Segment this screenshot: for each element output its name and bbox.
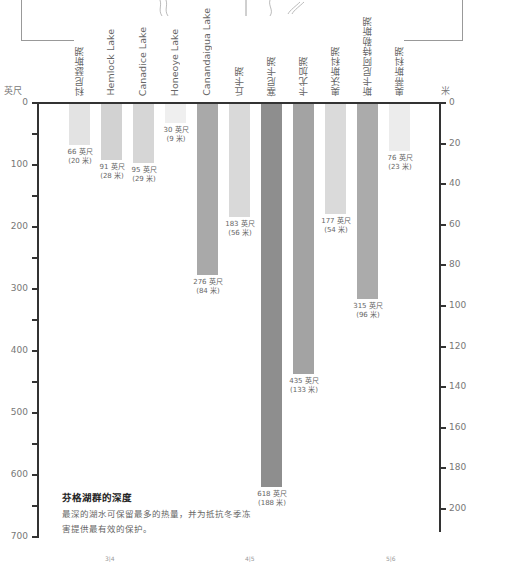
depth-bar	[133, 104, 154, 163]
value-meters: (29 米)	[122, 175, 166, 184]
left-tick	[32, 102, 38, 104]
value-meters: (56 米)	[218, 229, 262, 238]
depth-bar	[261, 104, 282, 487]
value-meters: (96 米)	[346, 311, 390, 320]
value-meters: (133 米)	[282, 386, 326, 395]
right-axis-unit: 米	[441, 84, 450, 97]
right-tick-label: 100	[449, 300, 466, 310]
value-meters: (9 米)	[154, 135, 198, 144]
right-tick	[440, 264, 446, 266]
left-axis-unit: 英尺	[4, 84, 22, 97]
left-tick-label: 600	[0, 469, 28, 479]
left-tick-label: 100	[0, 159, 28, 169]
left-tick	[32, 257, 38, 259]
depth-bar	[197, 104, 218, 275]
lake-label: 奥沃斯科湖	[329, 46, 343, 96]
left-tick	[32, 505, 38, 507]
right-tick	[440, 224, 446, 226]
right-tick-label: 0	[449, 97, 455, 107]
left-tick-label: 400	[0, 345, 28, 355]
value-feet: 618 英尺	[250, 490, 294, 499]
left-tick	[32, 412, 38, 414]
page-number-1: 3|4	[105, 555, 115, 562]
lake-label: 丘卡湖	[233, 66, 247, 96]
depth-bar	[101, 104, 122, 160]
left-tick	[32, 536, 38, 538]
bar-value-label: 276 英尺(84 米)	[186, 278, 230, 296]
depth-bar	[229, 104, 250, 217]
left-tick	[32, 164, 38, 166]
value-meters: (188 米)	[250, 499, 294, 508]
value-meters: (84 米)	[186, 287, 230, 296]
lake-label: 卡尤加湖	[297, 56, 311, 96]
lake-label: Honeoye Lake	[169, 29, 180, 96]
left-tick	[32, 381, 38, 383]
left-tick-label: 300	[0, 283, 28, 293]
lake-label: 塞尼卡湖	[265, 56, 279, 96]
left-tick-label: 200	[0, 221, 28, 231]
right-tick-label: 200	[449, 503, 466, 513]
right-tick-label: 160	[449, 422, 466, 432]
value-feet: 66 英尺	[58, 148, 102, 157]
left-tick	[32, 226, 38, 228]
left-tick	[32, 474, 38, 476]
right-tick-label: 80	[449, 259, 460, 269]
bar-value-label: 30 英尺(9 米)	[154, 126, 198, 144]
left-tick-label: 500	[0, 407, 28, 417]
page-number-3: 5|6	[386, 555, 396, 562]
lake-label: Canandaigua Lake	[201, 8, 212, 96]
left-tick	[32, 133, 38, 135]
bar-value-label: 435 英尺(133 米)	[282, 377, 326, 395]
depth-bar	[69, 104, 90, 145]
bar-value-label: 95 英尺(29 米)	[122, 166, 166, 184]
page-number-2: 4|5	[245, 555, 255, 562]
left-tick	[32, 443, 38, 445]
right-tick-label: 20	[449, 138, 460, 148]
right-tick	[440, 508, 446, 510]
left-tick-label: 0	[0, 97, 28, 107]
lake-label: 科尼瑟斯湖	[73, 46, 87, 96]
lake-label: 奥蒂斯科湖	[393, 46, 407, 96]
left-tick	[32, 195, 38, 197]
right-tick	[440, 346, 446, 348]
right-tick-label: 180	[449, 462, 466, 472]
right-tick	[440, 386, 446, 388]
depth-bar	[293, 104, 314, 374]
depth-bar	[389, 104, 410, 151]
right-tick-label: 60	[449, 219, 460, 229]
bar-value-label: 177 英尺(54 米)	[314, 217, 358, 235]
map-lakes-icon	[150, 0, 330, 18]
left-tick	[32, 288, 38, 290]
right-tick	[440, 467, 446, 469]
depth-bar	[357, 104, 378, 299]
left-tick	[32, 319, 38, 321]
map-mask-left	[74, 38, 404, 48]
bar-value-label: 183 英尺(56 米)	[218, 220, 262, 238]
value-feet: 76 英尺	[378, 154, 422, 163]
bar-value-label: 315 英尺(96 米)	[346, 302, 390, 320]
value-feet: 435 英尺	[282, 377, 326, 386]
value-meters: (23 米)	[378, 163, 422, 172]
right-tick	[440, 183, 446, 185]
value-feet: 276 英尺	[186, 278, 230, 287]
right-tick	[440, 143, 446, 145]
chart-title: 芬格湖群的深度	[62, 490, 132, 504]
depth-bar	[325, 104, 346, 214]
right-tick-label: 40	[449, 178, 460, 188]
right-tick	[440, 427, 446, 429]
lake-label: Hemlock Lake	[105, 29, 116, 96]
left-tick-label: 700	[0, 531, 28, 541]
right-tick	[440, 102, 446, 104]
right-tick	[440, 305, 446, 307]
value-feet: 177 英尺	[314, 217, 358, 226]
depth-bar	[165, 104, 186, 123]
value-feet: 315 英尺	[346, 302, 390, 311]
right-tick-label: 140	[449, 381, 466, 391]
lake-label: Canadice Lake	[137, 27, 148, 96]
value-feet: 95 英尺	[122, 166, 166, 175]
right-tick-label: 120	[449, 341, 466, 351]
bar-value-label: 618 英尺(188 米)	[250, 490, 294, 508]
bar-value-label: 76 英尺(23 米)	[378, 154, 422, 172]
lake-label: 斯卡尼阿特勒斯湖	[361, 16, 375, 96]
value-feet: 30 英尺	[154, 126, 198, 135]
